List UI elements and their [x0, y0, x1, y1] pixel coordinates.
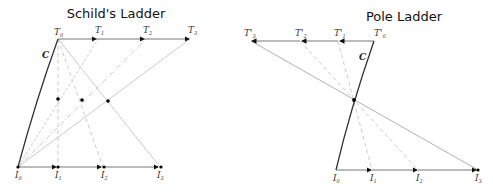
- ladder-diagram: Schild's Ladder: [0, 0, 493, 192]
- pole-title: Pole Ladder: [366, 9, 443, 24]
- pole-curve-label: C: [359, 52, 367, 62]
- diag-t0-i3: [58, 39, 160, 167]
- pole-point: [352, 98, 356, 102]
- pole-endpoint-i3: [476, 168, 479, 171]
- schild-label-i1: I1: [54, 170, 62, 181]
- schild-ladder-panel: Schild's Ladder: [14, 6, 197, 181]
- schild-title: Schild's Ladder: [67, 6, 166, 21]
- midpoint-1: [56, 97, 60, 101]
- schild-label-i0: I0: [14, 170, 23, 181]
- schild-label-t1: T1: [95, 25, 104, 36]
- schild-label-t0: T0: [54, 27, 64, 38]
- schild-curve-label: C: [42, 50, 50, 60]
- pole-ladder-panel: Pole Ladder C T'0 T'1 T'2 T'3: [244, 9, 482, 184]
- pole-label-i0: I0: [332, 173, 341, 184]
- pole-label-i3: I3: [474, 173, 482, 184]
- pole-label-t1: T'1: [334, 28, 346, 39]
- schild-label-t2: T2: [143, 25, 152, 36]
- midpoint-3: [106, 99, 110, 103]
- pole-label-t3: T'3: [244, 28, 256, 39]
- pole-label-i1: I1: [369, 173, 377, 184]
- schild-label-i3: I3: [156, 170, 164, 181]
- pole-label-t2: T'2: [295, 28, 307, 39]
- diag-t0-i2: [58, 39, 103, 167]
- pole-label-i2: I2: [415, 173, 423, 184]
- midpoint-2: [80, 98, 84, 102]
- schild-label-i2: I2: [100, 170, 108, 181]
- schild-label-t3: T3: [188, 25, 197, 36]
- pole-label-t0: T'0: [374, 28, 386, 39]
- schild-curve-c: [18, 39, 58, 167]
